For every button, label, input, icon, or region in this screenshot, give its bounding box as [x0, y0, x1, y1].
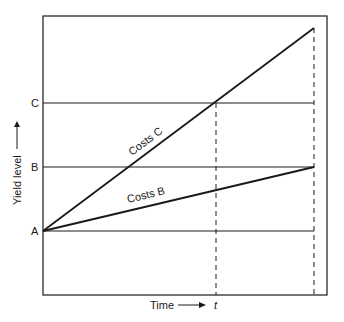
costs-b-line	[43, 167, 314, 231]
level-label-a: A	[31, 225, 39, 237]
level-label-c: C	[31, 97, 39, 109]
costs-b-label: Costs B	[126, 184, 166, 205]
x-axis-arrowhead-icon	[199, 302, 206, 308]
plot-frame	[43, 16, 327, 295]
level-label-b: B	[31, 161, 38, 173]
x-axis-label: Time	[150, 299, 174, 311]
costs-c-line	[43, 28, 314, 231]
costs-c-label: Costs C	[126, 125, 165, 158]
y-axis-label: Yield level	[11, 155, 23, 205]
x-marker-t: t	[214, 299, 218, 311]
yield-cost-diagram: C B A Costs C Costs B Yield level Time t	[0, 0, 344, 322]
y-axis-arrowhead-icon	[14, 121, 20, 127]
